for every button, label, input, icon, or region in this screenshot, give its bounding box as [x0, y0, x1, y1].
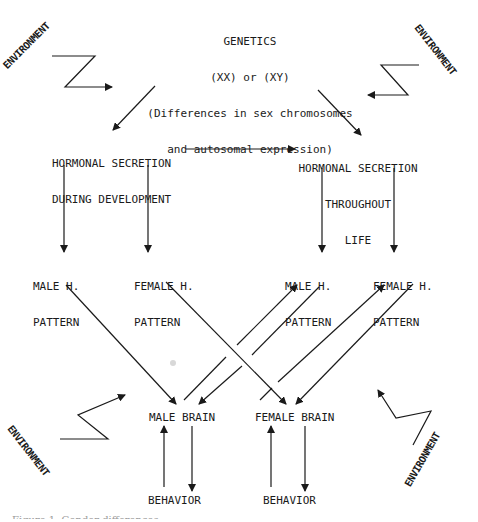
- male-pattern-line2: PATTERN: [33, 317, 79, 329]
- environment-zigzag-arrow-bottom-right: [378, 390, 431, 445]
- female-pattern-lifelong-line1: FEMALE H.: [373, 281, 433, 293]
- node-female-pattern-development: FEMALE H. PATTERN: [134, 257, 194, 341]
- genetics-title: GENETICS: [140, 36, 360, 48]
- hormonal-development-line2: DURING DEVELOPMENT: [52, 194, 171, 206]
- node-hormonal-lifelong: HORMONAL SECRETION THROUGHOUT LIFE: [296, 139, 420, 259]
- node-behavior-male: BEHAVIOR: [148, 495, 201, 507]
- hormonal-lifelong-line3: LIFE: [296, 235, 420, 247]
- female-pattern-lifelong-line2: PATTERN: [373, 317, 433, 329]
- node-behavior-female: BEHAVIOR: [263, 495, 316, 507]
- node-hormonal-development: HORMONAL SECRETION DURING DEVELOPMENT: [52, 134, 171, 218]
- male-pattern-lifelong-line1: MALE H.: [285, 281, 331, 293]
- node-female-brain: FEMALE BRAIN: [255, 412, 334, 424]
- node-male-pattern-lifelong: MALE H. PATTERN: [285, 257, 331, 341]
- environment-zigzag-arrow-top-left: [52, 56, 112, 87]
- female-pattern-line1: FEMALE H.: [134, 281, 194, 293]
- male-pattern-line1: MALE H.: [33, 281, 79, 293]
- node-male-brain: MALE BRAIN: [149, 412, 215, 424]
- arrow-male-brain-to-lifelong-male-pattern: [184, 357, 226, 400]
- node-male-pattern-development: MALE H. PATTERN: [33, 257, 79, 341]
- male-pattern-lifelong-line2: PATTERN: [285, 317, 331, 329]
- arrow-female-brain-to-lifelong-female-pattern: [260, 388, 272, 400]
- hormonal-development-line1: HORMONAL SECRETION: [52, 158, 171, 170]
- genetics-description-line1: (Differences in sex chromosomes: [140, 108, 360, 120]
- scan-artifact-dot: [170, 360, 176, 366]
- environment-zigzag-arrow-top-right: [368, 65, 419, 95]
- arrow-lifelong-male-pattern-to-male-brain-b: [199, 366, 242, 404]
- hormonal-lifelong-line1: HORMONAL SECRETION: [296, 163, 420, 175]
- environment-zigzag-arrow-bottom-left: [60, 395, 125, 439]
- female-pattern-line2: PATTERN: [134, 317, 194, 329]
- genetics-chromosomes: (XX) or (XY): [140, 72, 360, 84]
- node-female-pattern-lifelong: FEMALE H. PATTERN: [373, 257, 433, 341]
- hormonal-lifelong-line2: THROUGHOUT: [296, 199, 420, 211]
